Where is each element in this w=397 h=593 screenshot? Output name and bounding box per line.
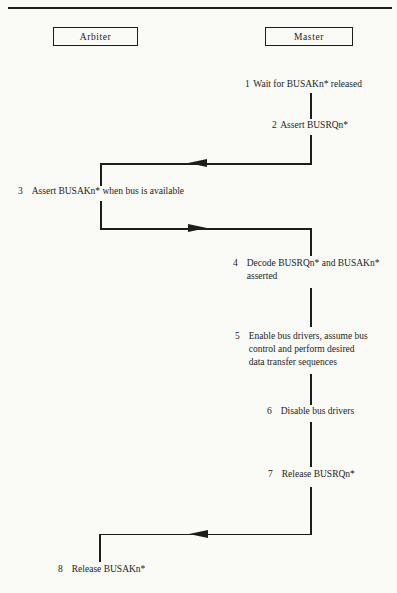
flowchart-page: Arbiter Master 1 Wait for BUSAKn* releas… — [0, 0, 397, 593]
connector-step6-step7 — [310, 422, 312, 467]
step-8-text: Release BUSAKn* — [72, 563, 146, 576]
step-2-number: 2 — [272, 119, 277, 132]
step-5-text-line1: Enable bus drivers, assume bus — [249, 330, 368, 343]
step-4-text-line1: Decode BUSRQn* and BUSAKn* — [247, 257, 380, 270]
master-label: Master — [294, 32, 324, 42]
step-7-text: Release BUSRQn* — [282, 468, 355, 481]
arrowhead-left-step2-step3 — [188, 159, 207, 167]
connector-step3-down — [100, 201, 102, 229]
step-2-text: Assert BUSRQn* — [280, 119, 348, 132]
step-7: 7 Release BUSRQn* — [268, 468, 355, 481]
step-3-text: Assert BUSAKn* when bus is available — [32, 185, 184, 198]
step-5-text-line3: data transfer sequences — [249, 356, 368, 369]
step-5-number: 5 — [235, 330, 240, 343]
connector-step5-step6 — [310, 374, 312, 405]
step-4: 4 Decode BUSRQn* and BUSAKn* asserted — [233, 257, 379, 283]
step-7-number: 7 — [268, 468, 273, 481]
step-4-number: 4 — [233, 257, 238, 270]
arbiter-box: Arbiter — [53, 27, 138, 46]
connector-step2-down — [310, 135, 312, 164]
step-1: 1 Wait for BUSAKn* released — [245, 78, 362, 91]
master-box: Master — [265, 27, 353, 46]
step-6-text: Disable bus drivers — [281, 405, 354, 418]
step-6-number: 6 — [267, 405, 272, 418]
arrowhead-right-step3-step4 — [188, 224, 207, 232]
step-6: 6 Disable bus drivers — [267, 405, 354, 418]
step-2: 2 Assert BUSRQn* — [272, 119, 348, 132]
connector-down-step8 — [99, 535, 101, 562]
arbiter-label: Arbiter — [80, 32, 112, 42]
top-rule — [8, 7, 392, 9]
step-3: 3 Assert BUSAKn* when bus is available — [18, 185, 184, 198]
connector-down-step4 — [310, 229, 312, 256]
step-3-number: 3 — [18, 185, 23, 198]
step-1-number: 1 — [245, 78, 250, 91]
step-5: 5 Enable bus drivers, assume bus control… — [235, 330, 368, 369]
connector-step7-down — [310, 487, 312, 535]
step-4-text-line2: asserted — [247, 270, 380, 283]
step-5-text-line2: control and perform desired — [249, 343, 368, 356]
step-8-number: 8 — [58, 563, 63, 576]
connector-down-step3 — [100, 164, 102, 186]
step-1-text: Wait for BUSAKn* released — [253, 78, 362, 91]
connector-step4-step5 — [310, 288, 312, 327]
arrowhead-left-step7-step8 — [189, 530, 208, 538]
connector-step1-step2 — [310, 93, 312, 119]
step-8: 8 Release BUSAKn* — [58, 563, 145, 576]
